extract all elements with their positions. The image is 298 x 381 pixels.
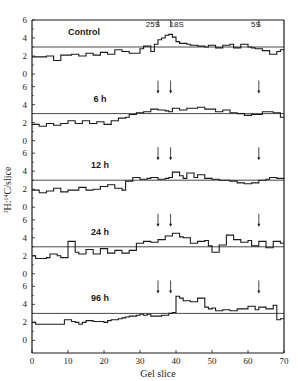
panel-6h: 02466 h — [23, 81, 285, 146]
arrowhead-icon — [169, 157, 172, 160]
arrowhead-icon — [157, 157, 160, 160]
y-tick-label: 2 — [23, 184, 28, 194]
y-tick-label: 2 — [23, 317, 28, 327]
y-tick-label: 4 — [23, 299, 28, 309]
step-trace — [32, 233, 284, 258]
plot-frame — [32, 20, 284, 353]
x-tick-label: 0 — [30, 356, 35, 366]
y-tick-label: 2 — [23, 51, 28, 61]
y-tick-label: 6 — [23, 281, 28, 291]
y-tick-label: 0 — [23, 202, 28, 212]
y-tick-label: 6 — [23, 148, 28, 158]
gel-slice-ratio-chart: 25S18S5S0246Control02466 h024612 h024624… — [0, 0, 298, 381]
panels: 25S18S5S0246Control02466 h024612 h024624… — [23, 15, 285, 345]
arrowhead-icon — [257, 224, 260, 227]
y-tick-label: 4 — [23, 100, 28, 110]
panel-96h: 024696 h — [23, 280, 285, 345]
x-tick-label: 20 — [100, 356, 110, 366]
y-tick-label: 0 — [23, 136, 28, 146]
panel-12h: 024612 h — [23, 147, 285, 212]
x-tick-label: 70 — [280, 356, 290, 366]
panel-label: Control — [68, 27, 100, 37]
arrowhead-icon — [157, 91, 160, 94]
x-tick-label: 50 — [208, 356, 218, 366]
marker-label-18s: 18S — [170, 20, 184, 29]
y-tick-label: 2 — [23, 118, 28, 128]
y-tick-label: 4 — [23, 166, 28, 176]
marker-label-5s: 5S — [251, 20, 261, 29]
arrowhead-icon — [169, 224, 172, 227]
x-tick-label: 10 — [64, 356, 74, 366]
panel-label: 96 h — [91, 293, 109, 303]
y-tick-label: 2 — [23, 251, 28, 261]
arrowhead-icon — [257, 290, 260, 293]
y-tick-label: 0 — [23, 269, 28, 279]
arrowhead-icon — [257, 91, 260, 94]
y-tick-label: 6 — [23, 15, 28, 25]
panel-label: 6 h — [93, 94, 106, 104]
panel-label: 24 h — [91, 227, 109, 237]
arrowhead-icon — [157, 290, 160, 293]
x-tick-label: 60 — [244, 356, 254, 366]
arrowhead-icon — [169, 290, 172, 293]
step-trace — [32, 107, 284, 126]
y-tick-label: 4 — [23, 33, 28, 43]
y-tick-label: 6 — [23, 215, 28, 225]
step-trace — [32, 34, 284, 60]
x-tick-label: 30 — [136, 356, 146, 366]
x-axis-title: Gel slice — [140, 368, 176, 379]
y-tick-label: 6 — [23, 82, 28, 92]
y-axis-title-h: H: — [2, 200, 13, 210]
panel-24h: 024624 h — [23, 214, 285, 279]
y-tick-label: 0 — [23, 69, 28, 79]
step-trace — [32, 296, 284, 324]
x-tick-label: 40 — [172, 356, 182, 366]
y-axis-title: 3H:14C/slice — [2, 166, 13, 213]
arrowhead-icon — [157, 224, 160, 227]
y-tick-label: 0 — [23, 335, 28, 345]
y-tick-label: 4 — [23, 233, 28, 243]
step-trace — [32, 172, 284, 193]
y-axis-title-c: C/slice — [2, 166, 13, 194]
panel-label: 12 h — [91, 160, 109, 170]
arrowhead-icon — [257, 157, 260, 160]
arrowhead-icon — [169, 91, 172, 94]
